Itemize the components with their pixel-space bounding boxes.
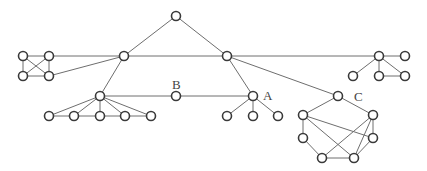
node-f5 (147, 112, 156, 121)
node-h2 (369, 111, 378, 120)
node-h1 (299, 111, 308, 120)
node-k1 (19, 52, 28, 61)
node-B (172, 92, 181, 101)
node-k3 (19, 72, 28, 81)
node-h3 (299, 134, 308, 143)
graph-labels: B A C (172, 77, 363, 104)
node-a2 (249, 112, 258, 121)
node-fan (96, 92, 105, 101)
edge-top-hubL (124, 16, 176, 56)
node-h4 (369, 134, 378, 143)
edge-hubR-C (227, 56, 338, 96)
node-top (172, 12, 181, 21)
label-a: A (263, 88, 273, 103)
node-h5 (318, 154, 327, 163)
node-r0 (375, 52, 384, 61)
edge-k4-hubL (49, 56, 124, 76)
node-C (334, 92, 343, 101)
edge-h2-h5 (322, 115, 373, 158)
node-r3 (375, 72, 384, 81)
node-a3 (274, 112, 283, 121)
network-graph: B A C (0, 0, 427, 171)
node-r4 (401, 72, 410, 81)
node-f4 (121, 112, 130, 121)
node-r1 (401, 52, 410, 61)
node-k2 (45, 52, 54, 61)
node-r2 (349, 72, 358, 81)
edge-top-hubR (176, 16, 227, 56)
node-a1 (223, 112, 232, 121)
edge-C-h1 (303, 96, 338, 115)
node-A (249, 92, 258, 101)
node-k4 (45, 72, 54, 81)
graph-nodes (19, 12, 410, 163)
node-hubR (223, 52, 232, 61)
node-hubL (120, 52, 129, 61)
label-c: C (354, 89, 363, 104)
node-f1 (45, 112, 54, 121)
node-f3 (96, 112, 105, 121)
edge-h1-h6 (303, 115, 354, 158)
edge-h1-h4 (303, 115, 373, 138)
label-b: B (172, 77, 181, 92)
node-f2 (70, 112, 79, 121)
edge-hubL-fan (100, 56, 124, 96)
edge-hubR-A (227, 56, 253, 96)
node-h6 (350, 154, 359, 163)
graph-edges (23, 16, 405, 158)
